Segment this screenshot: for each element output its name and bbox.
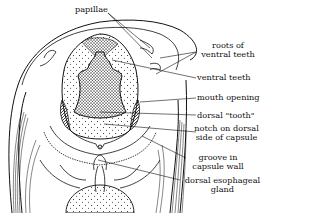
label-line: capsule wall — [186, 162, 250, 171]
dorsal-esophageal-gland — [66, 185, 134, 213]
label-ventral-teeth: ventral teeth — [197, 73, 251, 82]
label-line: ventral teeth — [193, 50, 263, 59]
label-line: side of capsule — [189, 133, 264, 142]
label-groove-in-capsule-wall: groove in capsule wall — [186, 153, 250, 171]
label-notch-on-dorsal-side: notch on dorsal side of capsule — [189, 124, 264, 142]
label-papillae: papillae — [75, 5, 108, 14]
label-roots-of-ventral-teeth: roots of ventral teeth — [193, 41, 263, 59]
label-dorsal-esophageal-gland: dorsal esophageal gland — [180, 176, 265, 194]
buccal-capsule — [60, 34, 139, 139]
label-line: gland — [180, 185, 265, 194]
label-dorsal-tooth: dorsal "tooth" — [197, 111, 255, 120]
label-mouth-opening: mouth opening — [197, 93, 260, 102]
